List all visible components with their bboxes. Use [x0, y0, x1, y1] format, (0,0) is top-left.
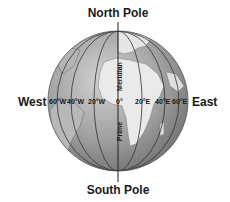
longitude-label-0: 0° [116, 98, 123, 105]
east-label: East [192, 95, 217, 109]
longitude-label-40w: 40°W [67, 98, 84, 105]
longitude-label-20e: 20°E [135, 98, 150, 105]
west-label: West [18, 95, 46, 109]
south-pole-label: South Pole [0, 183, 230, 197]
longitude-label-60w: 60°W [49, 98, 66, 105]
longitude-label-40e: 40°E [155, 98, 170, 105]
north-pole-label: North Pole [0, 6, 230, 20]
meridian-label: Meridian [116, 62, 123, 92]
landmass-madagascar [160, 122, 164, 136]
prime-label: Prime [116, 119, 123, 145]
longitude-label-60e: 60°E [172, 98, 187, 105]
longitude-label-20w: 20°W [88, 98, 105, 105]
